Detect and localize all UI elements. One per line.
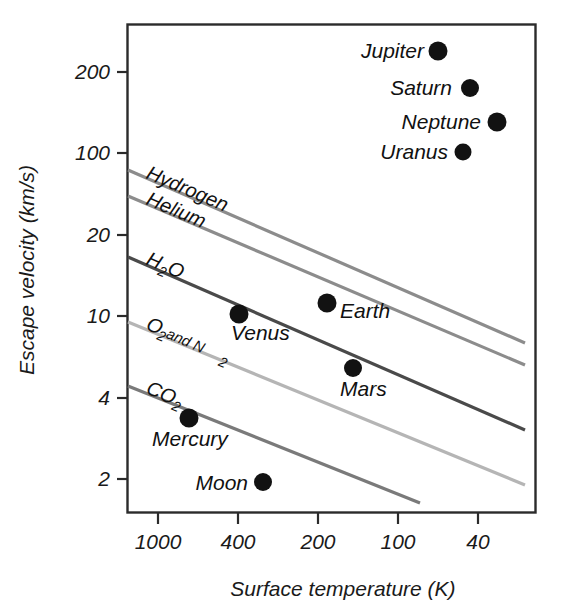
- y-tick-label-200: 200: [74, 60, 110, 83]
- y-tick-label-2: 2: [97, 467, 110, 490]
- x-tick-label-100: 100: [380, 530, 415, 553]
- data-points: [180, 42, 507, 492]
- escape-velocity-chart: 200 100 20 10 4 2 1000 400 200 100 40 Su…: [0, 0, 567, 614]
- x-tick-label-200: 200: [299, 530, 335, 553]
- data-point-mars[interactable]: [344, 359, 362, 377]
- data-label-uranus: Uranus: [380, 140, 448, 163]
- data-point-uranus[interactable]: [455, 144, 472, 161]
- data-label-moon: Moon: [195, 471, 248, 494]
- y-axis-tick-labels: 200 100 20 10 4 2: [74, 60, 110, 490]
- x-axis-ticks: [158, 512, 478, 524]
- h2o-tail: O: [165, 256, 188, 282]
- o2n2-mid: and N: [164, 325, 208, 356]
- data-point-saturn[interactable]: [461, 79, 479, 97]
- data-point-moon[interactable]: [254, 473, 272, 491]
- y-tick-label-10: 10: [87, 304, 111, 327]
- x-tick-label-1000: 1000: [135, 530, 182, 553]
- x-axis-title: Surface temperature (K): [230, 577, 455, 600]
- x-tick-label-40: 40: [466, 530, 490, 553]
- data-label-neptune: Neptune: [402, 110, 481, 133]
- data-label-mars: Mars: [340, 377, 387, 400]
- data-point-labels: Jupiter Saturn Neptune Uranus Venus Eart…: [152, 39, 481, 494]
- x-tick-label-400: 400: [220, 530, 255, 553]
- data-label-venus: Venus: [231, 321, 290, 344]
- y-tick-label-20: 20: [86, 223, 111, 246]
- curve-label-co2: CO 2: [142, 376, 187, 415]
- y-tick-label-100: 100: [75, 141, 110, 164]
- curve-label-o2-n2: O 2 and N 2: [142, 312, 234, 371]
- data-label-saturn: Saturn: [390, 76, 452, 99]
- data-label-mercury: Mercury: [152, 427, 229, 450]
- x-axis-tick-labels: 1000 400 200 100 40: [135, 530, 490, 553]
- chart-canvas: 200 100 20 10 4 2 1000 400 200 100 40 Su…: [0, 0, 567, 614]
- data-point-neptune[interactable]: [488, 113, 507, 132]
- data-point-earth[interactable]: [318, 294, 337, 313]
- data-point-jupiter[interactable]: [429, 42, 448, 61]
- y-axis-title: Escape velocity (km/s): [15, 165, 38, 375]
- data-label-earth: Earth: [340, 299, 390, 322]
- y-tick-label-4: 4: [98, 386, 110, 409]
- data-point-mercury[interactable]: [180, 409, 199, 428]
- data-label-jupiter: Jupiter: [360, 39, 425, 62]
